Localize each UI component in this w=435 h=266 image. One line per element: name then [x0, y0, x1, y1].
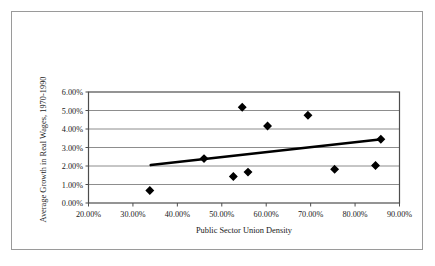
scatter-chart: 0.00%1.00%2.00%3.00%4.00%5.00%6.00%20.00…	[0, 0, 435, 266]
x-tick-label-5: 70.00%	[298, 210, 323, 219]
x-tick-label-1: 30.00%	[120, 210, 145, 219]
y-tick-label-6: 6.00%	[62, 88, 83, 97]
x-tick-label-0: 20.00%	[76, 210, 101, 219]
y-axis-title: Average Growth in Real Wages, 1970-1990	[39, 76, 48, 222]
data-point	[377, 136, 384, 143]
trendline	[151, 139, 382, 165]
chart-figure: 0.00%1.00%2.00%3.00%4.00%5.00%6.00%20.00…	[0, 0, 435, 266]
data-point	[239, 104, 246, 111]
x-axis-title: Public Sector Union Density	[196, 226, 293, 235]
x-axis: 20.00%30.00%40.00%50.00%60.00%70.00%80.0…	[76, 203, 412, 219]
y-tick-label-0: 0.00%	[62, 199, 83, 208]
data-point	[146, 187, 153, 194]
y-tick-label-5: 5.00%	[62, 107, 83, 116]
y-axis: 0.00%1.00%2.00%3.00%4.00%5.00%6.00%	[62, 88, 89, 208]
x-tick-label-2: 40.00%	[165, 210, 190, 219]
y-tick-label-3: 3.00%	[62, 144, 83, 153]
data-point	[201, 155, 208, 162]
y-tick-label-4: 4.00%	[62, 125, 83, 134]
y-tick-label-2: 2.00%	[62, 162, 83, 171]
data-point	[372, 162, 379, 169]
data-point	[230, 173, 237, 180]
y-tick-label-1: 1.00%	[62, 181, 83, 190]
x-tick-label-7: 90.00%	[387, 210, 412, 219]
data-point	[331, 166, 338, 173]
series-0-points	[146, 104, 384, 194]
x-tick-label-6: 80.00%	[342, 210, 367, 219]
x-tick-label-4: 60.00%	[254, 210, 279, 219]
x-tick-label-3: 50.00%	[209, 210, 234, 219]
data-point	[264, 123, 271, 130]
data-point	[305, 112, 312, 119]
data-point	[245, 169, 252, 176]
